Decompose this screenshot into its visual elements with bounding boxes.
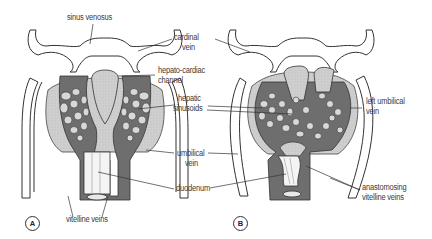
label-hepato-cardiac-line2: channel — [158, 76, 183, 86]
duodenum-a — [84, 152, 110, 194]
label-cardinal-vein-line2: vein — [182, 43, 195, 53]
umbilical-vein-left-a — [22, 78, 38, 198]
label-duodenum: duodenum — [176, 184, 210, 194]
label-umbilical-vein-line2: vein — [185, 159, 198, 169]
label-vitelline-veins: vitelline veins — [66, 215, 108, 225]
umbilical-vein-left-b — [230, 78, 248, 196]
diagram-artwork — [0, 0, 432, 239]
panel-a — [22, 24, 188, 217]
label-sinus-venosus: sinus venosus — [67, 13, 112, 23]
label-left-umbilical-vein-line2: vein — [366, 107, 379, 117]
panel-badge-b: B — [233, 216, 248, 231]
label-hepatic-sinusoids-line2: sinusoids — [173, 104, 203, 114]
embryonic-liver-diagram: sinus venosus cardinal vein hepato-cardi… — [0, 0, 432, 239]
label-anastomosing-line2: vitelline veins — [362, 193, 404, 203]
panel-b — [207, 30, 374, 200]
panel-badge-a: A — [25, 216, 40, 231]
